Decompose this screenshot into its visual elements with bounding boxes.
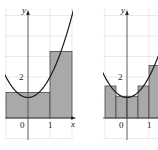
x-tick-label: 0: [119, 120, 124, 130]
riemann-rectangle: [50, 51, 72, 118]
y-tick-label: 2: [118, 72, 123, 82]
panel-midpoint-two-rects: yx012: [0, 0, 76, 140]
y-axis-label: y: [21, 5, 26, 15]
y-axis-arrow-icon: [125, 10, 129, 15]
y-tick-label: 2: [19, 72, 24, 82]
y-axis-label: y: [120, 5, 125, 15]
panel-midpoint-five-rects: y012: [98, 0, 158, 140]
riemann-sum-figure: yx012 y012: [0, 0, 158, 150]
riemann-rectangle: [127, 96, 138, 118]
x-tick-label: 1: [147, 120, 152, 130]
x-tick-label: 0: [20, 120, 25, 130]
riemann-rectangle: [116, 96, 127, 118]
x-axis-label: x: [70, 119, 75, 129]
y-axis-arrow-icon: [26, 10, 30, 15]
plot-area: [98, 0, 158, 138]
x-tick-label: 1: [48, 120, 53, 130]
plot-area: [0, 0, 76, 138]
